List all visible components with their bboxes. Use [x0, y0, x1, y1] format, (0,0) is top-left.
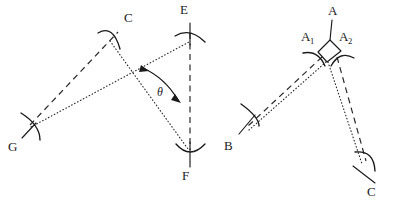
- segment-c-to-f-dotted: [110, 41, 188, 149]
- segment-apex-to-c-dotted: [328, 62, 362, 164]
- segment-apex-to-c-dashed: [337, 57, 366, 161]
- left-panel: C E G F θ: [8, 2, 205, 183]
- segment-g-to-e-dotted: [31, 42, 189, 127]
- geometry-figure: C E G F θ: [0, 0, 394, 209]
- vertex-label-b: B: [224, 138, 233, 153]
- figure-canvas: C E G F θ: [0, 0, 394, 209]
- compass-arc-b: [241, 104, 259, 126]
- tick-mark-b: [239, 115, 255, 134]
- vertex-label-e: E: [180, 2, 188, 17]
- vertex-label-a1: A 1: [301, 29, 314, 46]
- compass-arc-a2: [331, 55, 354, 66]
- vertex-label-c-right: C: [367, 184, 376, 199]
- segment-g-to-c-dashed: [30, 32, 118, 125]
- angle-label-theta: θ: [157, 85, 163, 99]
- subscript-2: 2: [348, 36, 352, 46]
- segment-apex-to-b-dotted: [249, 62, 326, 130]
- tick-mark-c-right: [353, 166, 375, 183]
- compass-arc-c-right: [355, 152, 375, 171]
- vertex-label-c: C: [124, 10, 133, 25]
- segment-apex-to-b-dashed: [248, 57, 322, 126]
- tick-mark-g: [22, 123, 36, 138]
- vertex-label-g: G: [8, 139, 17, 154]
- segment-a-to-apex-solid: [330, 20, 332, 40]
- subscript-1: 1: [310, 36, 314, 46]
- right-panel: A A 1 A 2 B C: [224, 3, 376, 199]
- vertex-label-a2: A 2: [339, 29, 352, 46]
- vertex-label-a: A: [328, 3, 338, 18]
- vertex-label-f: F: [182, 168, 189, 183]
- arrow-head-lower: [171, 94, 181, 103]
